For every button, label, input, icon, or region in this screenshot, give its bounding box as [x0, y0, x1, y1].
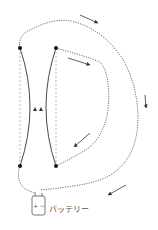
battery-label: バッテリー	[49, 203, 89, 214]
parallel-wires	[20, 48, 56, 166]
wire-up-arrows-icon	[33, 107, 43, 111]
parallel-wires-diagram	[0, 0, 158, 230]
wire-endpoints	[18, 46, 58, 168]
coiled-wires	[18, 20, 138, 193]
battery-terminals: + −	[33, 202, 45, 209]
current-direction-arrows-icon	[68, 15, 146, 195]
